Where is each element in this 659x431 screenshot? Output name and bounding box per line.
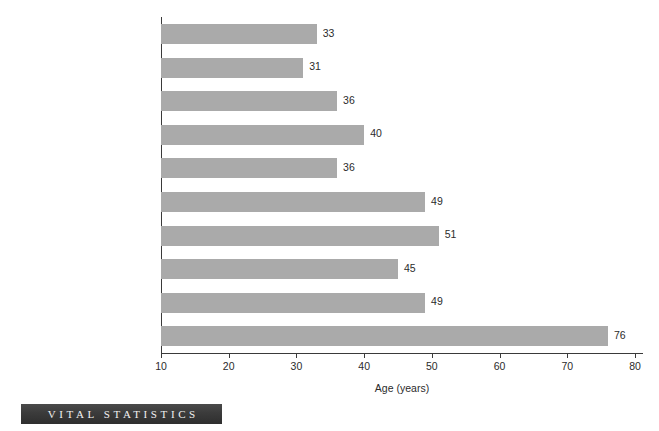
x-axis-tick <box>500 353 501 358</box>
x-axis-tick-label: 30 <box>276 360 316 372</box>
x-axis-tick-label: 60 <box>480 360 520 372</box>
bar-value-label: 45 <box>404 262 416 274</box>
x-axis-tick-label: 80 <box>615 360 655 372</box>
bar-chart-figure: Neanderthal33Mesolithic31Copper Age (Wes… <box>0 0 659 400</box>
bar <box>161 91 337 111</box>
bar-row: 17th Century(Breslau, Poland)51 <box>0 219 659 253</box>
bar-row: 1990 United States76 <box>0 319 659 353</box>
x-axis-tick <box>229 353 230 358</box>
bar-value-label: 36 <box>343 161 355 173</box>
bar <box>161 226 439 246</box>
bar-row: 4th Century A.D.(Ancient Greece and Rome… <box>0 151 659 185</box>
bar <box>161 192 425 212</box>
x-axis-tick <box>364 353 365 358</box>
bar <box>161 158 337 178</box>
bar-value-label: 76 <box>614 329 626 341</box>
vital-statistics-banner-label: VITAL STATISTICS <box>44 408 199 420</box>
bar-row: Copper Age (West Turkey)36 <box>0 84 659 118</box>
x-axis-tick-label: 40 <box>344 360 384 372</box>
x-axis-line <box>161 353 643 354</box>
vital-statistics-banner: VITAL STATISTICS <box>21 404 222 424</box>
bar-row: Mesolithic31 <box>0 51 659 85</box>
bar <box>161 58 303 78</box>
bar-row: Medieval England49 <box>0 185 659 219</box>
bar-value-label: 49 <box>431 295 443 307</box>
bar <box>161 293 425 313</box>
x-axis-tick-label: 10 <box>141 360 181 372</box>
bar-row: Bronze Age (Austria)40 <box>0 118 659 152</box>
bar-value-label: 51 <box>445 228 457 240</box>
x-axis-tick-label: 70 <box>547 360 587 372</box>
bar <box>161 326 608 346</box>
bar <box>161 125 364 145</box>
x-axis-tick <box>432 353 433 358</box>
x-axis-tick <box>161 353 162 358</box>
x-axis-tick-label: 20 <box>209 360 249 372</box>
bar-row: 18th Century (Philadelphia)45 <box>0 252 659 286</box>
x-axis-tick <box>567 353 568 358</box>
x-axis-tick <box>296 353 297 358</box>
bar <box>161 259 398 279</box>
bar <box>161 24 317 44</box>
bar-value-label: 40 <box>370 127 382 139</box>
x-axis-title: Age (years) <box>161 382 643 394</box>
bar-value-label: 31 <box>309 60 321 72</box>
x-axis-tick <box>635 353 636 358</box>
bar-value-label: 49 <box>431 195 443 207</box>
bar-value-label: 36 <box>343 94 355 106</box>
bar-row: Neanderthal33 <box>0 17 659 51</box>
x-axis-tick-label: 50 <box>412 360 452 372</box>
bar-row: 1900 United States49 <box>0 286 659 320</box>
bar-value-label: 33 <box>323 27 335 39</box>
